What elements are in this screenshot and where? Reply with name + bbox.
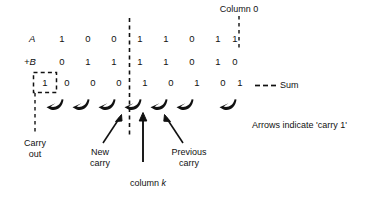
row-sum-digit-3: 1 xyxy=(140,78,150,88)
carry-out-label-line1: Carry xyxy=(24,138,46,149)
column-k-label-var: k xyxy=(162,178,167,188)
row-sum-digit-5: 1 xyxy=(192,78,202,88)
sum-legend-label: Sum xyxy=(280,80,299,91)
carry-out-label-line2: out xyxy=(29,149,42,160)
carry-arc-group xyxy=(47,99,237,110)
previous-carry-label-line2: carry xyxy=(179,158,199,169)
arrows-indicate-note: Arrows indicate 'carry 1' xyxy=(252,120,347,131)
binary-addition-carry-diagram: Column 0 A 1 0 0 1 1 0 1 1 +B 0 1 1 1 1 … xyxy=(0,0,382,198)
row-a-digit-2: 0 xyxy=(109,34,119,44)
row-sum-digit-7: 1 xyxy=(235,78,245,88)
row-b-digit-2: 1 xyxy=(109,57,119,67)
row-sum-digit-0: 0 xyxy=(62,78,72,88)
column-k-label-prefix: column xyxy=(130,178,162,188)
row-b-digit-0: 0 xyxy=(57,57,67,67)
column-k-label: column k xyxy=(120,167,166,198)
column-k-pointer-head xyxy=(139,113,147,122)
new-carry-pointer-head xyxy=(116,115,123,122)
carry-arc-4-new-carry xyxy=(125,99,142,110)
row-b-label: +B xyxy=(24,57,36,67)
column-0-label: Column 0 xyxy=(220,4,259,15)
carry-arc-6 xyxy=(177,99,194,110)
row-b-digit-1: 1 xyxy=(83,57,93,67)
new-carry-label-line1: New xyxy=(91,147,109,158)
row-sum-digit-2: 0 xyxy=(114,78,124,88)
row-a-digit-6: 1 xyxy=(213,34,223,44)
row-sum-digit-1: 0 xyxy=(88,78,98,88)
carry-out-digit: 1 xyxy=(40,78,50,88)
row-a-digit-1: 0 xyxy=(83,34,93,44)
previous-carry-label-line1: Previous xyxy=(171,147,206,158)
carry-arc-2 xyxy=(73,99,90,110)
new-carry-label-line2: carry xyxy=(90,158,110,169)
row-b-digit-5: 0 xyxy=(187,57,197,67)
row-b-digit-3: 1 xyxy=(135,57,145,67)
row-b-digit-7: 0 xyxy=(230,57,240,67)
row-a-digit-0: 1 xyxy=(57,34,67,44)
row-a-digit-3: 1 xyxy=(135,34,145,44)
carry-arc-7 xyxy=(220,99,237,110)
row-a-label: A xyxy=(29,34,35,44)
carry-arc-3 xyxy=(99,99,116,110)
row-a-digit-7: 1 xyxy=(230,34,240,44)
row-b-digit-6: 1 xyxy=(213,57,223,67)
carry-arc-1 xyxy=(47,99,64,110)
row-b-digit-4: 1 xyxy=(161,57,171,67)
row-sum-digit-6: 0 xyxy=(218,78,228,88)
row-sum-digit-4: 0 xyxy=(166,78,176,88)
carry-arc-5-previous-carry xyxy=(151,99,168,110)
row-a-digit-5: 0 xyxy=(187,34,197,44)
row-a-digit-4: 1 xyxy=(161,34,171,44)
previous-carry-pointer-head xyxy=(164,115,171,122)
